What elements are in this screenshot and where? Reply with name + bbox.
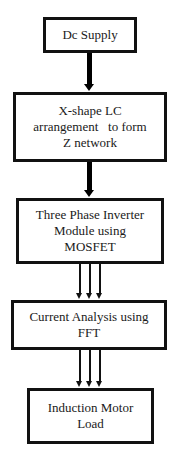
dc-supply-block: Dc Supply xyxy=(43,17,137,53)
current-analysis-line-2: FFT xyxy=(78,325,100,341)
inverter-line-2: Module using xyxy=(54,223,126,239)
current-analysis-line-1: Current Analysis using xyxy=(29,309,148,325)
current-analysis-block: Current Analysis using FFT xyxy=(11,300,167,350)
arrow-phase-c xyxy=(99,350,101,382)
motor-load-block: Induction Motor Load xyxy=(27,388,154,444)
x-shape-lc-block: X-shape LC arrangement to form Z network xyxy=(13,92,167,162)
x-shape-lc-line-3: Z network xyxy=(63,135,117,151)
arrow-lc-to-inverter xyxy=(87,162,92,191)
arrow-phase-a xyxy=(79,350,81,382)
motor-load-line-2: Load xyxy=(77,416,104,432)
arrow-dc-to-lc xyxy=(87,53,92,85)
arrow-phase-b xyxy=(89,264,91,294)
arrow-phase-a xyxy=(79,264,81,294)
dc-supply-label: Dc Supply xyxy=(62,27,117,43)
arrow-phase-b xyxy=(89,350,91,382)
inverter-line-1: Three Phase Inverter xyxy=(36,207,144,223)
x-shape-lc-line-2: arrangement to form xyxy=(33,119,146,135)
arrow-phase-c xyxy=(99,264,101,294)
motor-load-line-1: Induction Motor xyxy=(48,400,134,416)
x-shape-lc-line-1: X-shape LC xyxy=(58,103,121,119)
inverter-line-3: MOSFET xyxy=(64,239,115,255)
inverter-block: Three Phase Inverter Module using MOSFET xyxy=(16,198,164,264)
